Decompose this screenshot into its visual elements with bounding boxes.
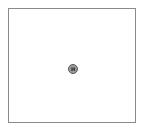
marker-label: H: [71, 67, 75, 72]
h-marker-icon[interactable]: H: [68, 64, 78, 74]
